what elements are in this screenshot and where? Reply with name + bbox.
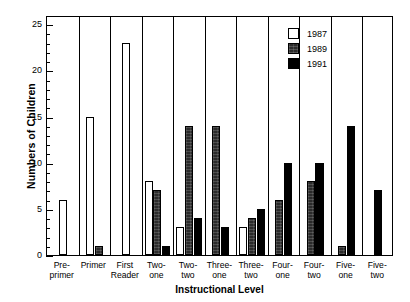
x-axis-tick-label-line: two (298, 271, 330, 281)
tick-mark (46, 16, 50, 17)
x-axis-tick-label-line: Primer (78, 261, 110, 271)
bar (239, 227, 247, 255)
tick-mark (46, 127, 50, 128)
y-axis-tick-label: 10 (18, 158, 42, 168)
tick-mark (46, 71, 53, 72)
x-axis-tick-label-line: Reader (109, 271, 141, 281)
bar (95, 246, 103, 255)
tick-mark (46, 145, 50, 146)
x-axis-tick-label-line: one (204, 271, 236, 281)
x-axis-tick-label: Three-one (204, 261, 236, 280)
bar (145, 181, 153, 255)
tick-mark (46, 62, 50, 63)
category-separator (362, 17, 363, 255)
x-axis-tick-label: Five-two (361, 261, 393, 280)
x-axis-tick-label: Primer (78, 261, 110, 271)
x-axis-tick-label: Four-one (267, 261, 299, 280)
chart-legend: 198719891991 (288, 26, 327, 71)
x-axis-tick-label-line: two (361, 271, 393, 281)
tick-mark (46, 201, 50, 202)
tick-mark (46, 108, 50, 109)
tick-mark (46, 154, 50, 155)
category-separator (331, 17, 332, 255)
tick-mark (46, 256, 53, 257)
bar (307, 181, 315, 255)
bar (185, 126, 193, 255)
tick-mark (46, 90, 50, 91)
legend-item: 1987 (288, 26, 327, 41)
tick-mark (46, 164, 53, 165)
tick-mark (46, 136, 50, 137)
x-axis-tick-label-line: two (172, 271, 204, 281)
y-axis-tick-label: 15 (18, 112, 42, 122)
category-separator (236, 17, 237, 255)
legend-item: 1991 (288, 56, 327, 71)
tick-mark (46, 182, 50, 183)
x-axis-tick-label-line: one (141, 271, 173, 281)
category-separator (142, 17, 143, 255)
tick-mark (46, 44, 50, 45)
x-axis-tick-label: Three-two (235, 261, 267, 280)
tick-mark (46, 228, 50, 229)
x-axis-tick-label: Two-two (172, 261, 204, 280)
category-separator (173, 17, 174, 255)
tick-mark (46, 219, 50, 220)
x-axis-tick-label: Pre-primer (46, 261, 78, 280)
x-axis-tick-label-line: primer (46, 271, 78, 281)
plot-area (46, 16, 393, 256)
bar (284, 163, 292, 255)
legend-swatch (288, 58, 299, 69)
plot-inner (47, 17, 392, 255)
y-axis-tick-label: 0 (18, 250, 42, 260)
x-axis-tick-label: Four-two (298, 261, 330, 280)
tick-mark (46, 25, 53, 26)
tick-mark (46, 34, 50, 35)
bar (176, 227, 184, 255)
bar-chart: Numbers of Children 0510152025 Pre-prime… (0, 0, 410, 302)
bar (122, 43, 130, 255)
bar (275, 200, 283, 255)
bar (338, 246, 346, 255)
legend-item: 1989 (288, 41, 327, 56)
bar (162, 246, 170, 255)
category-separator (79, 17, 80, 255)
bar (194, 218, 202, 255)
x-axis-tick-label-line: one (330, 271, 362, 281)
y-axis-title: Numbers of Children (25, 51, 37, 221)
category-separator (268, 17, 269, 255)
legend-label: 1987 (307, 29, 327, 39)
bar (374, 190, 382, 255)
legend-label: 1991 (307, 59, 327, 69)
x-axis-tick-label: Two-one (141, 261, 173, 280)
tick-mark (46, 53, 50, 54)
legend-swatch (288, 28, 299, 39)
bar (86, 117, 94, 255)
bar (212, 126, 220, 255)
bar (153, 190, 161, 255)
bar (248, 218, 256, 255)
bar (59, 200, 67, 255)
tick-mark (46, 81, 50, 82)
tick-mark (46, 191, 50, 192)
tick-mark (46, 247, 50, 248)
y-axis-tick-label: 5 (18, 204, 42, 214)
tick-mark (46, 238, 50, 239)
x-axis-title: Instructional Level (46, 284, 393, 295)
legend-label: 1989 (307, 44, 327, 54)
legend-swatch (288, 43, 299, 54)
tick-mark (46, 173, 50, 174)
category-separator (110, 17, 111, 255)
tick-mark (46, 210, 53, 211)
x-axis-tick-label: FirstReader (109, 261, 141, 280)
bar (221, 227, 229, 255)
y-axis-tick-label: 20 (18, 65, 42, 75)
category-separator (205, 17, 206, 255)
x-axis-tick-label-line: one (267, 271, 299, 281)
bar (347, 126, 355, 255)
bar (315, 163, 323, 255)
x-axis-tick-label: Five-one (330, 261, 362, 280)
tick-mark (46, 118, 53, 119)
bar (257, 209, 265, 255)
tick-mark (46, 99, 50, 100)
x-axis-tick-label-line: two (235, 271, 267, 281)
